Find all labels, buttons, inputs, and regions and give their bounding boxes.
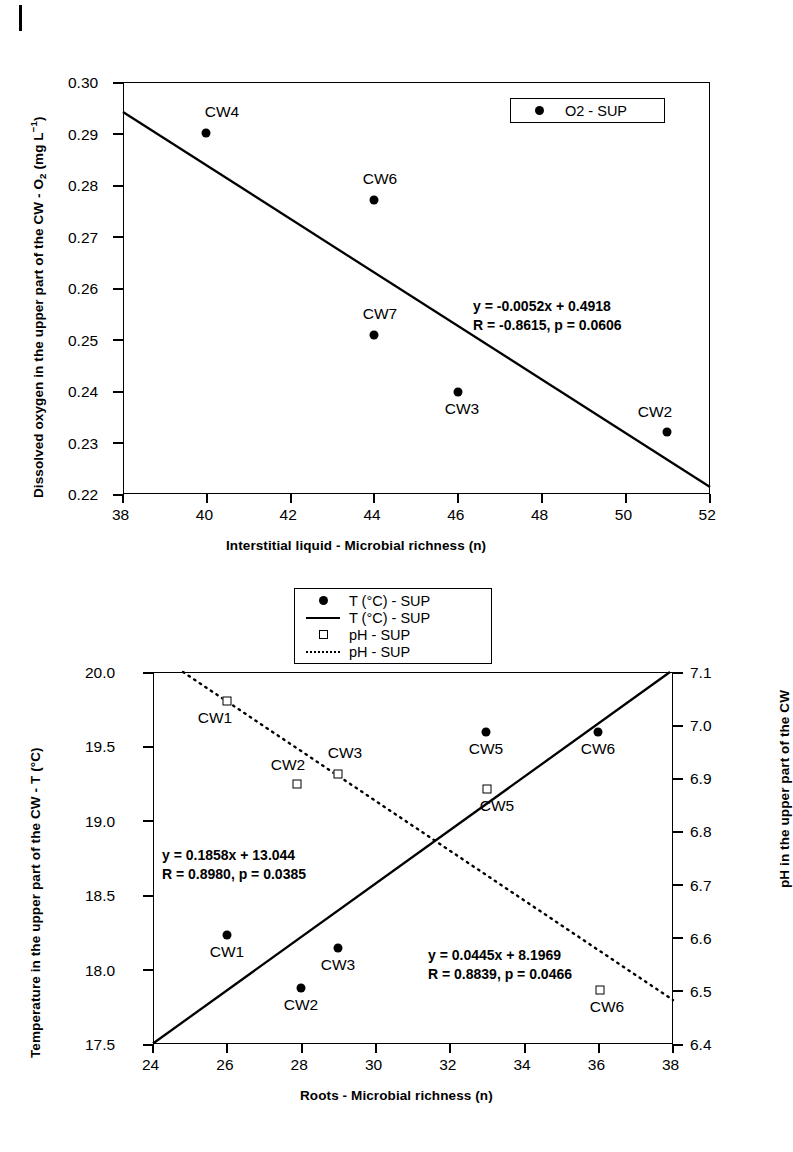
bottom-y-tick-mark-right [673, 831, 683, 833]
bottom-y-tick-label-right: 6.7 [690, 877, 712, 895]
bottom-temp-point-cw5 [482, 728, 491, 737]
bottom-y-tick-label-left: 18.0 [85, 962, 115, 980]
top-x-tick-mark [457, 494, 459, 503]
top-x-tick-label: 52 [699, 506, 716, 524]
top-legend-entry-o2[interactable]: O2 - SUP [517, 102, 656, 119]
top-x-tick-mark [122, 494, 124, 503]
top-legend[interactable]: O2 - SUP [510, 98, 665, 123]
top-y-tick-label: 0.26 [68, 280, 98, 298]
bottom-y-tick-mark-left [143, 969, 153, 971]
bottom-ph-point-cw2 [293, 780, 302, 789]
bottom-temp-label-cw2: CW2 [284, 996, 318, 1014]
bottom-x-tick-label: 32 [439, 1056, 456, 1074]
top-x-tick-mark [373, 494, 375, 503]
top-y-tick-mark [113, 391, 123, 393]
bottom-y-tick-mark-right [673, 672, 683, 674]
top-y-tick-mark [113, 288, 123, 290]
top-x-tick-mark [206, 494, 208, 503]
bottom-y-tick-label-right: 6.8 [690, 823, 712, 841]
bottom-chart-panel: Temperature in the upper part of the CW … [0, 580, 793, 1152]
bottom-equation-line-ph: y = 0.0445x + 8.1969 [428, 946, 572, 965]
bottom-ph-point-cw6 [596, 986, 605, 995]
top-point-cw3 [454, 388, 463, 397]
bottom-ph-label-cw2: CW2 [271, 756, 305, 774]
bottom-y-tick-label-left: 18.5 [85, 887, 115, 905]
top-y-tick-label: 0.28 [68, 177, 98, 195]
bottom-y-tick-label-right: 6.4 [690, 1036, 712, 1054]
bottom-legend-entry-ph-marker[interactable]: pH - SUP [301, 626, 483, 643]
bottom-temp-point-cw6 [594, 728, 603, 737]
bottom-x-tick-label: 38 [662, 1056, 679, 1074]
bottom-temp-label-cw6: CW6 [581, 740, 615, 758]
bottom-y-tick-label-left: 17.5 [85, 1036, 115, 1054]
bottom-ph-label-cw5: CW5 [480, 797, 514, 815]
bottom-x-tick-label: 24 [142, 1056, 159, 1074]
top-y-tick-label: 0.22 [68, 486, 98, 504]
bottom-y-tick-label-left: 20.0 [85, 664, 115, 682]
bottom-y-tick-label-right: 7.0 [690, 717, 712, 735]
bottom-x-tick-mark [152, 1044, 154, 1053]
bottom-equation-block-temp: y = 0.1858x + 13.044 R = 0.8980, p = 0.0… [162, 846, 306, 884]
bottom-legend-entry-temp-line[interactable]: T (°C) - SUP [301, 609, 483, 626]
bottom-equation-stats-temp: R = 0.8980, p = 0.0385 [162, 865, 306, 884]
bottom-temp-label-cw1: CW1 [210, 943, 244, 961]
top-point-label-cw2: CW2 [638, 403, 672, 421]
bottom-legend-label: pH - SUP [345, 627, 410, 643]
top-point-label-cw7: CW7 [363, 305, 397, 323]
top-point-cw6 [370, 196, 379, 205]
bottom-y-tick-label-right: 6.5 [690, 983, 712, 1001]
open-square-icon [301, 630, 345, 639]
bottom-x-tick-label: 36 [588, 1056, 605, 1074]
top-x-tick-mark [625, 494, 627, 503]
top-y-tick-label: 0.24 [68, 383, 98, 401]
bottom-ph-point-cw1 [223, 697, 232, 706]
bottom-y-tick-mark-right [673, 725, 683, 727]
top-point-label-cw4: CW4 [205, 103, 239, 121]
bottom-y-tick-label-left: 19.5 [85, 738, 115, 756]
top-x-tick-mark [290, 494, 292, 503]
bottom-x-tick-label: 34 [514, 1056, 531, 1074]
bottom-ph-point-cw5 [483, 785, 492, 794]
bottom-x-tick-mark [226, 1044, 228, 1053]
bottom-y-tick-label-right: 6.9 [690, 770, 712, 788]
top-y-tick-label: 0.29 [68, 126, 98, 144]
bottom-x-tick-mark [375, 1044, 377, 1053]
bottom-y-axis-title-right: pH in the upper part of the CW [777, 690, 792, 888]
bottom-x-tick-mark [524, 1044, 526, 1053]
top-equation-stats: R = -0.8615, p = 0.0606 [473, 316, 622, 335]
solid-line-icon [301, 617, 345, 619]
top-plot-area [123, 82, 710, 494]
top-point-cw4 [202, 129, 211, 138]
filled-circle-icon [517, 106, 561, 115]
bottom-temp-label-cw5: CW5 [469, 740, 503, 758]
top-y-tick-label: 0.27 [68, 229, 98, 247]
top-y-tick-mark [113, 133, 123, 135]
bottom-y-tick-mark-right [673, 990, 683, 992]
bottom-legend-entry-temp-marker[interactable]: T (°C) - SUP [301, 592, 483, 609]
top-x-tick-mark [541, 494, 543, 503]
top-x-axis-title: Interstitial liquid - Microbial richness… [226, 538, 486, 553]
bottom-y-tick-label-left: 19.0 [85, 813, 115, 831]
bottom-temp-point-cw2 [297, 984, 306, 993]
top-y-tick-label: 0.25 [68, 332, 98, 350]
bottom-x-tick-mark [449, 1044, 451, 1053]
bottom-ph-label-cw1: CW1 [198, 709, 232, 727]
bottom-y-tick-mark-right [673, 937, 683, 939]
top-point-label-cw3: CW3 [445, 400, 479, 418]
bottom-y-tick-mark-right [673, 1044, 683, 1046]
bottom-y-tick-label-right: 6.6 [690, 930, 712, 948]
top-x-tick-label: 40 [196, 506, 213, 524]
bottom-x-tick-label: 28 [291, 1056, 308, 1074]
bottom-y-tick-mark-right [673, 778, 683, 780]
bottom-x-axis-title: Roots - Microbial richness (n) [300, 1088, 493, 1103]
bottom-legend[interactable]: T (°C) - SUP T (°C) - SUP pH - SUP pH - … [294, 588, 492, 664]
bottom-legend-entry-ph-line[interactable]: pH - SUP [301, 643, 483, 660]
bottom-y-tick-mark-right [673, 884, 683, 886]
bottom-ph-label-cw3: CW3 [328, 744, 362, 762]
top-x-tick-label: 48 [531, 506, 548, 524]
bottom-x-tick-label: 30 [365, 1056, 382, 1074]
top-point-cw7 [370, 331, 379, 340]
top-y-axis-title: Dissolved oxygen in the upper part of th… [28, 116, 48, 498]
top-x-tick-label: 44 [363, 506, 380, 524]
bottom-y-tick-mark-left [143, 672, 153, 674]
